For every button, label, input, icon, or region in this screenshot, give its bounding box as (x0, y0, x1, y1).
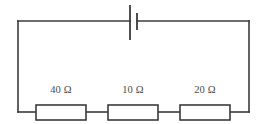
resistor-10-ohm-body (108, 105, 158, 120)
resistor-40-ohm-label: 40 Ω (36, 84, 86, 96)
circuit-schematic-canvas (0, 0, 261, 124)
resistor-10-ohm-label: 10 Ω (108, 84, 158, 96)
resistor-20-ohm-body (180, 105, 230, 120)
resistor-20-ohm-label: 20 Ω (180, 84, 230, 96)
resistor-40-ohm-body (36, 105, 86, 120)
circuit-diagram: 40 Ω 10 Ω 20 Ω (0, 0, 261, 124)
